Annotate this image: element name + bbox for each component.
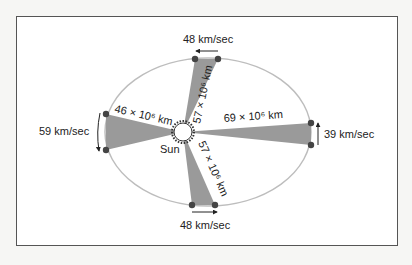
distance-aphelion-label: 69 × 10⁶ km — [223, 108, 283, 124]
speed-top-label: 48 km/sec — [183, 33, 234, 45]
sun-icon — [172, 121, 194, 143]
sun-label: Sun — [160, 143, 180, 155]
speed-left-label: 59 km/sec — [39, 125, 90, 137]
speed-bottom-label: 48 km/sec — [180, 219, 231, 231]
orbit-diagram: 48 km/sec 48 km/sec 59 km/sec 39 km/sec … — [0, 0, 412, 265]
arrow-left-icon — [98, 113, 100, 151]
speed-right-label: 39 km/sec — [324, 128, 375, 140]
